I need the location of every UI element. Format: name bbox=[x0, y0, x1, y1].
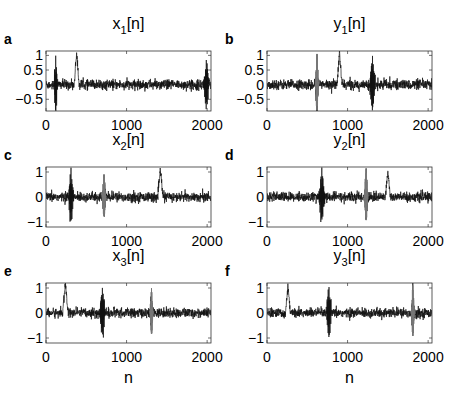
signal-trace bbox=[267, 168, 432, 223]
y-tick-label: 0.5 bbox=[24, 62, 44, 78]
y-tick-label: 0 bbox=[256, 189, 264, 205]
panel-title: x2[n] bbox=[113, 131, 145, 152]
y-tick-label: 0 bbox=[35, 305, 43, 321]
y-tick-label: −0.5 bbox=[236, 91, 264, 107]
x-tick-label: 0 bbox=[263, 349, 271, 365]
y-tick-label: 0 bbox=[35, 189, 43, 205]
panel-title: y1[n] bbox=[334, 15, 366, 36]
x-tick-label: 2000 bbox=[413, 117, 444, 133]
panel-a: 010002000−0.500.51x1[n]a bbox=[4, 15, 223, 133]
x-tick-label: 0 bbox=[42, 349, 50, 365]
panel-f: 010002000−101y3[n]fn bbox=[225, 247, 444, 386]
x-tick-label: 0 bbox=[42, 233, 50, 249]
axes-box bbox=[46, 51, 211, 111]
x-tick-label: 0 bbox=[263, 117, 271, 133]
y-tick-label: 1 bbox=[256, 47, 264, 63]
highlighted-burst bbox=[102, 175, 106, 216]
x-tick-label: 0 bbox=[263, 233, 271, 249]
panel-letter: f bbox=[225, 263, 230, 279]
y-tick-label: −1 bbox=[248, 330, 264, 346]
y-tick-label: 1 bbox=[256, 280, 264, 296]
figure: 010002000−0.500.51x1[n]a010002000−0.500.… bbox=[0, 0, 460, 398]
x-axis-label: n bbox=[124, 369, 133, 386]
panel-letter: d bbox=[225, 147, 234, 163]
panel-b: 010002000−0.500.51y1[n]b bbox=[225, 15, 444, 133]
y-tick-label: −1 bbox=[27, 330, 43, 346]
panel-letter: b bbox=[225, 31, 234, 47]
y-tick-label: −1 bbox=[27, 214, 43, 230]
x-tick-label: 1000 bbox=[332, 349, 363, 365]
y-tick-label: 1 bbox=[35, 164, 43, 180]
panel-title: y2[n] bbox=[334, 131, 366, 152]
panel-letter: a bbox=[4, 31, 12, 47]
highlighted-burst bbox=[315, 54, 319, 110]
panel-title: y3[n] bbox=[334, 247, 366, 268]
y-tick-label: 0 bbox=[256, 305, 264, 321]
signal-trace bbox=[46, 53, 211, 112]
signal-trace bbox=[267, 282, 432, 337]
panel-title: x1[n] bbox=[113, 15, 145, 36]
y-tick-label: −0.5 bbox=[15, 91, 43, 107]
signal-trace bbox=[46, 280, 211, 338]
highlighted-burst bbox=[411, 286, 415, 337]
highlighted-burst bbox=[364, 170, 368, 221]
y-tick-label: 1 bbox=[256, 164, 264, 180]
panel-e: 010002000−101x3[n]en bbox=[4, 247, 223, 386]
y-tick-label: 1 bbox=[35, 47, 43, 63]
signal-trace bbox=[267, 50, 432, 115]
y-tick-label: 0.5 bbox=[245, 62, 265, 78]
panel-d: 010002000−101y2[n]d bbox=[225, 131, 444, 249]
y-tick-label: 0 bbox=[256, 77, 264, 93]
y-tick-label: 1 bbox=[35, 280, 43, 296]
x-tick-label: 2000 bbox=[413, 349, 444, 365]
panel-letter: c bbox=[4, 147, 12, 163]
x-tick-label: 0 bbox=[42, 117, 50, 133]
panel-c: 010002000−101x2[n]c bbox=[4, 131, 223, 249]
x-tick-label: 2000 bbox=[192, 349, 223, 365]
panel-title: x3[n] bbox=[113, 247, 145, 268]
signal-trace bbox=[46, 168, 211, 222]
x-tick-label: 2000 bbox=[413, 233, 444, 249]
y-tick-label: 0 bbox=[35, 77, 43, 93]
y-tick-label: −1 bbox=[248, 214, 264, 230]
highlighted-burst bbox=[150, 288, 154, 334]
x-tick-label: 2000 bbox=[192, 233, 223, 249]
x-tick-label: 2000 bbox=[192, 117, 223, 133]
x-tick-label: 1000 bbox=[111, 349, 142, 365]
x-axis-label: n bbox=[345, 369, 354, 386]
panel-letter: e bbox=[4, 263, 12, 279]
